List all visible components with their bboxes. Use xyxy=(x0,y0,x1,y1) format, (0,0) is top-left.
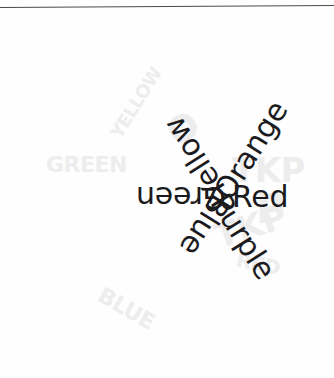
color-wheel-diagram: Red Orange Yellow Green Blue Purple xyxy=(0,0,334,378)
scanned-page: TKPTKPGREENBLUEYELLOWREDPO Red Orange Ye… xyxy=(0,0,334,378)
